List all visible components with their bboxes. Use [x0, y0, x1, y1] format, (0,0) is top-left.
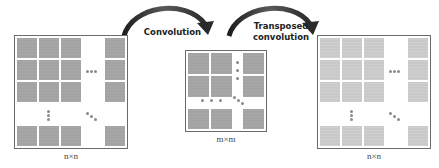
matrix-cell: [105, 82, 125, 102]
ellipsis-dot: [236, 77, 239, 80]
matrix-cell: [17, 60, 37, 80]
matrix-cell: [320, 60, 340, 80]
matrix-cell: [342, 38, 362, 58]
ellipsis-dot: [389, 70, 392, 73]
ellipsis-dot: [393, 115, 396, 118]
matrix-cell: [408, 126, 428, 146]
ellipsis-dot: [47, 118, 50, 121]
matrix-cell: [211, 109, 232, 129]
ellipsis-dot: [393, 70, 396, 73]
matrix-cell: [39, 82, 59, 102]
ellipsis-dot: [86, 70, 89, 73]
middle-matrix-label: m×m: [209, 134, 243, 144]
matrix-cell: [320, 82, 340, 102]
matrix-cell: [211, 76, 232, 97]
ellipsis-dot: [94, 70, 97, 73]
matrix-cell: [61, 126, 81, 146]
input-matrix: [14, 35, 128, 149]
matrix-cell: [408, 38, 428, 58]
ellipsis-dot: [86, 112, 89, 115]
matrix-cell: [342, 82, 362, 102]
ellipsis-dot: [350, 118, 353, 121]
matrix-cell: [105, 60, 125, 80]
matrix-cell: [342, 60, 362, 80]
matrix-cell: [364, 126, 384, 146]
ellipsis-dot: [47, 110, 50, 113]
matrix-cell: [320, 38, 340, 58]
matrix-cell: [342, 126, 362, 146]
matrix-cell: [188, 76, 209, 97]
ellipsis-dot: [241, 102, 244, 105]
ellipsis-dot: [94, 118, 97, 121]
ellipsis-dot: [350, 110, 353, 113]
matrix-cell: [105, 38, 125, 58]
ellipsis-dot: [237, 99, 240, 102]
ellipsis-dot: [90, 115, 93, 118]
output-matrix-label: n×n: [359, 151, 389, 161]
transposed-convolution-label: Transposed convolution: [250, 21, 312, 43]
convolution-label: Convolution: [140, 27, 205, 38]
matrix-cell: [61, 82, 81, 102]
matrix-cell: [188, 109, 209, 129]
matrix-cell: [17, 82, 37, 102]
ellipsis-dot: [236, 61, 239, 64]
matrix-cell: [243, 109, 264, 129]
matrix-cell: [61, 60, 81, 80]
ellipsis-dot: [90, 70, 93, 73]
ellipsis-dot: [389, 112, 392, 115]
transposed-convolution-label-line2: convolution: [250, 32, 312, 43]
matrix-cell: [39, 38, 59, 58]
matrix-cell: [408, 82, 428, 102]
input-matrix-label: n×n: [56, 151, 86, 161]
matrix-cell: [61, 38, 81, 58]
matrix-cell: [243, 76, 264, 97]
transposed-convolution-label-line1: Transposed: [250, 21, 312, 32]
ellipsis-dot: [47, 114, 50, 117]
matrix-cell: [243, 53, 264, 74]
matrix-cell: [17, 126, 37, 146]
matrix-cell: [408, 60, 428, 80]
ellipsis-dot: [397, 70, 400, 73]
middle-matrix: [185, 50, 267, 132]
matrix-cell: [105, 126, 125, 146]
matrix-cell: [17, 38, 37, 58]
matrix-cell: [364, 60, 384, 80]
ellipsis-dot: [219, 99, 222, 102]
matrix-cell: [188, 53, 209, 74]
matrix-cell: [39, 126, 59, 146]
matrix-cell: [364, 38, 384, 58]
output-matrix: [317, 35, 431, 149]
matrix-cell: [320, 126, 340, 146]
ellipsis-dot: [397, 118, 400, 121]
matrix-cell: [364, 82, 384, 102]
ellipsis-dot: [210, 99, 213, 102]
matrix-cell: [211, 53, 232, 74]
matrix-cell: [39, 60, 59, 80]
ellipsis-dot: [236, 69, 239, 72]
ellipsis-dot: [350, 114, 353, 117]
ellipsis-dot: [201, 99, 204, 102]
ellipsis-dot: [233, 96, 236, 99]
